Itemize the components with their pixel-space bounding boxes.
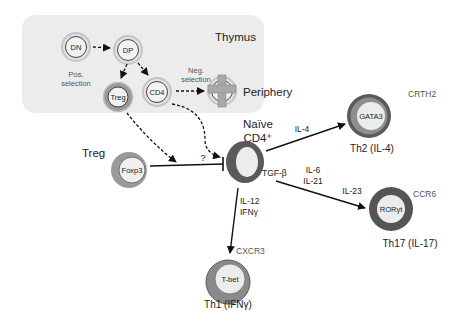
th17-label: Th17 (IL-17) [382, 238, 437, 249]
foxp3-label: Foxp3 [122, 166, 143, 175]
neg-selection-line2: selection [181, 75, 211, 84]
il23-label: IL-23 [342, 186, 362, 196]
cxcr3-label: CXCR3 [236, 246, 265, 256]
pos-selection-line2: selection [61, 79, 91, 88]
t-cell-differentiation-diagram: Thymus DN Pos. selection DP Treg CD4 Neg… [0, 0, 463, 324]
ror-gamma-t-label: RORγt [380, 205, 403, 214]
tgf-beta-label: TGF-β [262, 168, 287, 178]
periphery-label: Periphery [243, 86, 292, 98]
inhibition-question-mark: ? [200, 153, 205, 163]
deleted-cell-cross [208, 75, 236, 107]
il21-label: IL-21 [303, 176, 323, 186]
th2-label: Th2 (IL-4) [350, 143, 394, 154]
ifn-gamma-cytokine-label: IFNγ [240, 207, 259, 217]
pos-selection-line1: Pos. [68, 70, 83, 79]
th17-cell: RORγt [369, 187, 413, 231]
il4-cytokine-label: IL-4 [295, 124, 310, 134]
ccr6-label: CCR6 [413, 189, 436, 199]
dp-label: DP [123, 46, 133, 55]
th1-label: Th1 (IFNγ) [204, 299, 252, 310]
dp-cell: DP [114, 36, 142, 64]
t-bet-label: T-bet [221, 275, 239, 284]
il6-label: IL-6 [306, 165, 321, 175]
thymus-label: Thymus [215, 31, 256, 43]
thymus-treg-cell: Treg [104, 83, 133, 112]
periphery-treg-cell: Foxp3 [111, 152, 147, 188]
dn-cell: DN [62, 33, 90, 61]
il12-label: IL-12 [240, 196, 260, 206]
gata3-label: GATA3 [359, 112, 382, 121]
dn-label: DN [71, 43, 82, 52]
treg-inhibition-line [150, 164, 223, 166]
thymus-cd4-cell: CD4 [143, 78, 171, 106]
naive-label-line1: Naïve [243, 118, 273, 130]
thymus-cd4-label: CD4 [149, 88, 164, 97]
th2-cell: GATA3 [347, 94, 391, 138]
naive-to-th1-arrow [230, 188, 238, 253]
periphery-treg-label: Treg [82, 147, 105, 159]
naive-cd4-cell [226, 141, 264, 183]
crth2-label: CRTH2 [408, 89, 436, 99]
neg-selection-line1: Neg. [188, 66, 204, 75]
thymus-treg-label: Treg [110, 93, 125, 102]
th1-cell: T-bet [206, 260, 250, 304]
